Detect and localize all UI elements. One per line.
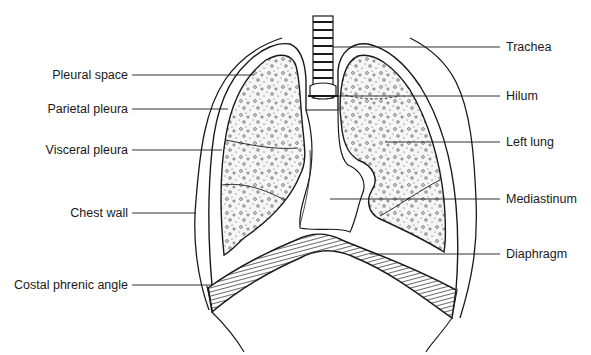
label-left-lung: Left lung bbox=[506, 135, 554, 149]
label-diaphragm: Diaphragm bbox=[506, 247, 567, 261]
label-mediastinum: Mediastinum bbox=[506, 192, 577, 206]
lung-illustration bbox=[0, 0, 591, 355]
lung-anatomy-diagram: Pleural space Parietal pleura Visceral p… bbox=[0, 0, 591, 355]
label-costal-phrenic-angle: Costal phrenic angle bbox=[14, 278, 128, 292]
label-pleural-space: Pleural space bbox=[52, 68, 128, 82]
diaphragm-shape bbox=[208, 234, 456, 318]
left-lung-shape bbox=[340, 55, 446, 252]
label-parietal-pleura: Parietal pleura bbox=[47, 102, 128, 116]
label-trachea: Trachea bbox=[506, 40, 551, 54]
label-chest-wall: Chest wall bbox=[70, 206, 128, 220]
right-lung-shape bbox=[221, 55, 305, 255]
label-visceral-pleura: Visceral pleura bbox=[46, 143, 128, 157]
trachea-shape bbox=[308, 16, 338, 99]
label-hilum: Hilum bbox=[506, 89, 538, 103]
